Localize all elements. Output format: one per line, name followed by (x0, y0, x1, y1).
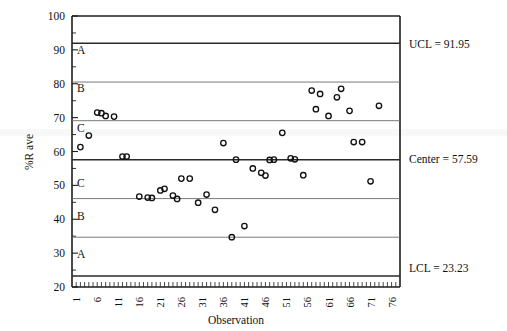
data-point (204, 192, 209, 197)
x-tick-label: 46 (260, 297, 271, 308)
data-point (313, 106, 318, 111)
zone-label-lower-a: A (77, 248, 86, 260)
x-tick-label: 66 (345, 297, 356, 308)
data-point (242, 223, 247, 228)
y-tick-label: 70 (54, 112, 66, 124)
center-annotation: Center = 57.59 (409, 153, 478, 165)
data-point (368, 179, 373, 184)
x-tick-label: 26 (176, 297, 187, 308)
zone-letter-labels: ABCCBA (77, 44, 86, 261)
data-point (250, 166, 255, 171)
data-point (103, 113, 108, 118)
y-tick-label: 50 (54, 179, 66, 191)
x-tick-label: 31 (197, 297, 208, 308)
data-point (326, 113, 331, 118)
control-chart-figure: 1009080706050403020 16111621263136414651… (0, 0, 507, 331)
data-point (187, 176, 192, 181)
y-tick-label: 80 (54, 78, 66, 90)
zone-label-lower-b: B (77, 210, 85, 222)
y-tick-label: 90 (54, 44, 66, 56)
y-tick-label: 100 (48, 10, 66, 22)
x-tick-label: 56 (302, 297, 313, 308)
x-tick-label: 36 (218, 297, 229, 308)
lcl-annotation: LCL = 23.23 (409, 262, 469, 274)
y-axis-ticks (72, 16, 78, 287)
x-tick-label: 41 (239, 297, 250, 308)
zone-label-upper-b: B (77, 82, 85, 94)
data-point (359, 139, 364, 144)
x-tick-label: 76 (387, 297, 398, 308)
x-axis-tick-labels: 161116212631364146515661667176 (71, 297, 397, 308)
zone-label-upper-a: A (77, 44, 86, 56)
plot-frame (72, 16, 400, 287)
y-tick-label: 40 (54, 213, 66, 225)
data-point (347, 108, 352, 113)
x-tick-label: 11 (113, 297, 124, 307)
x-tick-label: 1 (71, 297, 82, 302)
x-tick-label: 6 (92, 297, 103, 302)
data-point (212, 207, 217, 212)
x-tick-label: 16 (134, 297, 145, 308)
y-axis-tick-labels: 1009080706050403020 (48, 10, 66, 293)
ucl-annotation: UCL = 91.95 (409, 38, 470, 50)
data-point (78, 144, 83, 149)
data-point (317, 91, 322, 96)
control-chart-svg: 1009080706050403020 16111621263136414651… (0, 0, 507, 331)
data-point (179, 176, 184, 181)
data-point (309, 88, 314, 93)
x-tick-label: 61 (324, 297, 335, 308)
x-axis-title: Observation (208, 314, 264, 326)
x-tick-label: 51 (281, 297, 292, 308)
data-point-markers (78, 86, 382, 240)
data-point (221, 140, 226, 145)
zone-label-lower-c: C (77, 177, 85, 189)
y-tick-label: 20 (54, 281, 66, 293)
data-point (301, 173, 306, 178)
zone-label-upper-c: C (77, 122, 85, 134)
x-tick-label: 71 (366, 297, 377, 308)
data-point (111, 114, 116, 119)
y-axis-title: %R ave (23, 134, 35, 170)
data-point (338, 86, 343, 91)
data-point (263, 173, 268, 178)
data-point (334, 95, 339, 100)
data-point (376, 103, 381, 108)
x-tick-label: 21 (155, 297, 166, 308)
data-point (195, 200, 200, 205)
data-point (351, 139, 356, 144)
y-tick-label: 60 (54, 146, 66, 158)
y-tick-label: 30 (54, 247, 66, 259)
